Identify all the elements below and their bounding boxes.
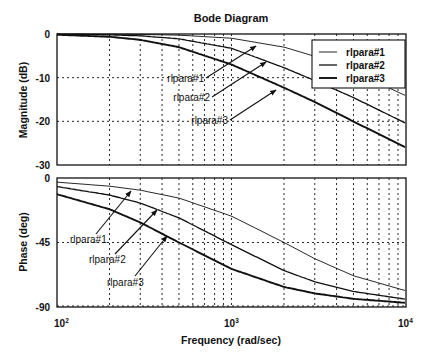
xtick-1e2: 102 (54, 317, 69, 329)
phase-ytick-0: 0 (44, 173, 50, 184)
phase-annotation-1: rlpara#1 (70, 234, 107, 245)
x-axis-label: Frequency (rad/sec) (181, 334, 281, 346)
mag-annotation-2: rlpara#2 (173, 92, 210, 103)
phase-panel: 0 -45 -90 Phase (deg) rlpara#1 rlpara#2 … (17, 173, 406, 313)
legend: rlpara#1 rlpara#2 rlpara#3 (312, 40, 405, 88)
xtick-1e3: 103 (224, 317, 239, 329)
legend-label-1: rlpara#1 (346, 47, 385, 58)
x-axis-ticks: 102 103 104 (54, 317, 413, 329)
phase-annotation-2: rlpara#2 (89, 254, 126, 265)
mag-ytick-3: -30 (36, 160, 51, 171)
phase-annotations: rlpara#1 rlpara#2 rlpara#3 (70, 191, 167, 288)
phase-ytick-1: -45 (36, 237, 51, 248)
magnitude-axis-label: Magnitude (dB) (17, 62, 29, 138)
mag-annotation-1: rlpara#1 (167, 73, 204, 84)
phase-axis-label: Phase (deg) (17, 212, 29, 272)
mag-ytick-1: -10 (36, 73, 51, 84)
mag-annotation-3: rlpara#3 (191, 115, 228, 126)
mag-ytick-2: -20 (36, 116, 51, 127)
legend-label-2: rlpara#2 (346, 60, 385, 71)
xtick-1e4: 104 (398, 317, 413, 329)
mag-ytick-0: 0 (44, 29, 50, 40)
phase-ytick-2: -90 (36, 302, 51, 313)
phase-annotation-3: rlpara#3 (107, 277, 144, 288)
magnitude-panel: 0 -10 -20 -30 Magnitude (dB) rlpara#1 rl… (17, 29, 406, 171)
legend-label-3: rlpara#3 (346, 73, 385, 84)
bode-diagram-figure: Bode Diagram 0 -10 -20 -30 Magnitude (dB… (0, 0, 430, 361)
chart-title: Bode Diagram (194, 12, 269, 24)
